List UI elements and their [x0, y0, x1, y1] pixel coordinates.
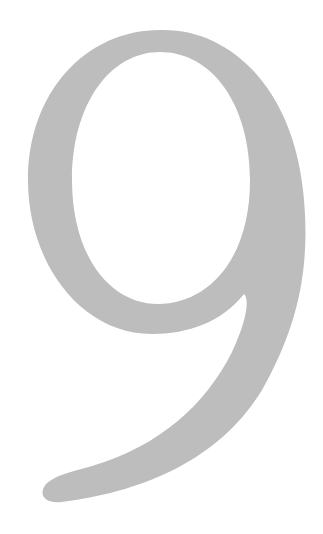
numeral-nine-shape	[28, 30, 305, 502]
numeral-nine-graphic	[0, 0, 323, 534]
canvas: 9	[0, 0, 323, 534]
